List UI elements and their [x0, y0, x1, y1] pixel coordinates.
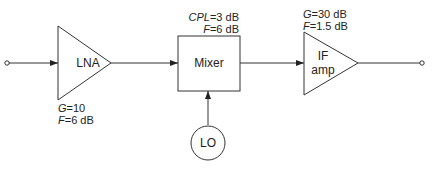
- lna-gain-symbol: G: [58, 102, 67, 114]
- if-nf-symbol: F: [303, 20, 310, 32]
- lo-label: LO: [192, 136, 224, 150]
- input-terminal: [5, 61, 9, 65]
- if-amp-params: G=30 dB F=1.5 dB: [303, 8, 348, 32]
- mixer-nf-symbol: F: [203, 23, 210, 35]
- if-nf-value: =1.5 dB: [310, 20, 348, 32]
- if-amp-label-line1: IF: [306, 49, 340, 63]
- if-amp-label: IF amp: [306, 49, 340, 77]
- lna-label: LNA: [70, 56, 106, 70]
- if-amp-label-line2: amp: [306, 63, 340, 77]
- output-terminal: [420, 61, 424, 65]
- mixer-nf-value: =6 dB: [210, 23, 239, 35]
- mixer-cpl-symbol: CPL: [189, 11, 210, 23]
- mixer-label: Mixer: [178, 56, 240, 70]
- lna-nf-symbol: F: [58, 114, 65, 126]
- lna-gain-value: =10: [67, 102, 86, 114]
- if-gain-value: =30 dB: [312, 8, 347, 20]
- if-gain-symbol: G: [303, 8, 312, 20]
- mixer-cpl-value: =3 dB: [210, 11, 239, 23]
- mixer-params: CPL=3 dB F=6 dB: [179, 11, 239, 35]
- lna-nf-value: =6 dB: [65, 114, 94, 126]
- lna-params: G=10 F=6 dB: [58, 102, 94, 126]
